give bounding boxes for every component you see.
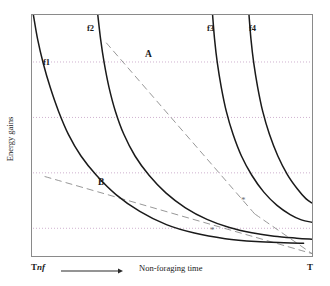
curve-label-f2: f2 [87,24,94,33]
chart-canvas [0,0,330,286]
x-axis-title: Non-foraging time [139,264,203,273]
x-axis-end-label: T [307,263,313,272]
curve-label-f4: f4 [249,24,256,33]
curve-label-f3: f3 [207,24,214,33]
x-axis-start-label-sub: nf [37,262,45,272]
asterisk-marker-2: * [210,226,215,235]
series-label-b: B [98,178,104,188]
figure-container: f1 f2 f3 f4 A B * * Energy gains Tnf Non… [0,0,330,286]
series-label-a: A [145,50,152,60]
y-axis-title-wrap: Energy gains [2,96,16,186]
asterisk-marker-1: * [241,196,246,205]
x-axis-arrow [61,269,123,274]
y-axis-title: Energy gains [5,101,15,177]
curve-label-f1: f1 [43,58,50,67]
x-axis-start-label: Tnf [31,263,45,272]
